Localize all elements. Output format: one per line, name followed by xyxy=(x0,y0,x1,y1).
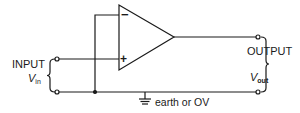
input-brace xyxy=(47,59,55,92)
inverting-input-wire xyxy=(95,15,119,92)
plus-sign: + xyxy=(120,52,127,66)
output-label: OUTPUT xyxy=(247,45,293,57)
input-terminal-bottom xyxy=(55,90,59,94)
output-terminal-top xyxy=(256,35,260,39)
junction-dot xyxy=(94,91,97,94)
input-label: INPUT xyxy=(12,58,45,70)
input-terminal-top xyxy=(55,57,59,61)
ground-label: earth or OV xyxy=(155,96,209,108)
ground-icon xyxy=(139,92,151,104)
opamp-circuit-diagram: − + INPUT Vin OUTPUT Vout earth or OV xyxy=(0,0,300,113)
output-terminal-bottom xyxy=(256,90,260,94)
input-voltage-label: Vin xyxy=(28,72,41,85)
minus-sign: − xyxy=(121,7,129,22)
